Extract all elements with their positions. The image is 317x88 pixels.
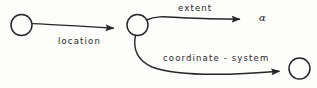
terminal-label-alpha: α (259, 13, 266, 23)
edge-path-extent[interactable] (146, 17, 240, 20)
diagram-vector-layer (0, 0, 317, 88)
edge-path-location[interactable] (32, 24, 114, 29)
edge-label-extent: extent (178, 4, 212, 13)
node-circle-source[interactable] (11, 15, 32, 36)
edge-label-coordinate-system: coordinate - system (163, 54, 269, 63)
node-circle-destination[interactable] (289, 58, 310, 79)
node-circle-hub[interactable] (127, 15, 148, 36)
edge-label-location: location (58, 37, 101, 46)
diagram-canvas: location extent coordinate - system α (0, 0, 317, 88)
